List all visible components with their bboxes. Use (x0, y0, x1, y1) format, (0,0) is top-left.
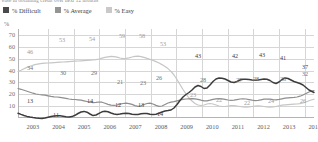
y-tick-40: 40 (1, 68, 15, 74)
data-label-easy-23: 23 (190, 92, 196, 98)
x-tick-2003: 2003 (27, 123, 40, 130)
data-label-difficult-14: 14 (157, 111, 163, 117)
data-label-average-32: 32 (302, 71, 308, 77)
data-label-average-34: 34 (27, 65, 33, 71)
data-label-difficult-13: 13 (138, 102, 144, 108)
data-label-difficult-41: 41 (280, 55, 286, 61)
legend-item-average[interactable]: % Average (55, 7, 92, 14)
x-tick-2013: 2013 (283, 123, 296, 130)
y-axis-unit: % (4, 20, 9, 27)
y-tick-30: 30 (1, 79, 15, 85)
chart-root: ease in obtaining credit over next 12 mo… (0, 0, 318, 142)
data-label-easy-59: 59 (119, 33, 125, 39)
legend-label-average: % Average (64, 7, 92, 14)
data-label-average-28: 28 (200, 77, 206, 83)
x-tick-2005: 2005 (78, 123, 91, 130)
x-tick-2014: 2014 (308, 123, 318, 130)
data-label-difficult-37: 37 (302, 64, 308, 70)
data-label-difficult-42: 42 (232, 53, 238, 59)
y-tick-20: 20 (1, 91, 15, 97)
data-label-difficult-12: 12 (115, 102, 121, 108)
x-tick-2006: 2006 (103, 123, 116, 130)
data-label-easy-26: 26 (300, 98, 306, 104)
data-label-difficult-14: 14 (87, 98, 93, 104)
data-label-easy-46: 46 (27, 49, 33, 55)
legend-item-difficult[interactable]: % Difficult (3, 7, 41, 14)
data-label-difficult-13: 13 (27, 98, 33, 104)
data-label-difficult-43: 43 (195, 53, 201, 59)
chart-caption: ease in obtaining credit over next 12 mo… (2, 0, 98, 3)
legend-label-difficult: % Difficult (12, 7, 41, 14)
data-label-difficult-11: 11 (53, 112, 59, 118)
x-tick-2004: 2004 (52, 123, 65, 130)
x-tick-2008: 2008 (155, 123, 168, 130)
data-label-average-26: 26 (156, 75, 162, 81)
y-tick-10: 10 (1, 103, 15, 109)
data-label-easy-54: 54 (89, 36, 95, 42)
data-label-easy-58: 58 (139, 33, 145, 39)
data-label-average-21: 21 (117, 79, 123, 85)
data-label-average-29: 29 (91, 70, 97, 76)
data-label-difficult-43: 43 (259, 52, 265, 58)
data-label-easy-53: 53 (59, 37, 65, 43)
legend-label-easy: % Easy (115, 7, 134, 14)
legend-item-easy[interactable]: % Easy (106, 7, 134, 14)
y-tick-70: 70 (1, 32, 15, 38)
legend-swatch-difficult (3, 7, 9, 13)
x-tick-2012: 2012 (257, 123, 270, 130)
data-label-easy-22: 22 (244, 100, 250, 106)
legend-swatch-easy (106, 7, 112, 13)
data-label-average-23: 23 (140, 80, 146, 86)
x-tick-2011: 2011 (232, 123, 244, 130)
data-label-average-28: 28 (253, 76, 259, 82)
data-label-average-28: 28 (280, 76, 286, 82)
legend-swatch-average (55, 7, 61, 13)
data-label-average-27: 27 (236, 77, 242, 83)
data-label-average-30: 30 (60, 70, 66, 76)
data-label-easy-24: 24 (268, 98, 274, 104)
x-tick-2010: 2010 (206, 123, 219, 130)
x-tick-2007: 2007 (129, 123, 142, 130)
data-label-easy-22: 22 (216, 97, 222, 103)
chart-legend: % Difficult % Average % Easy (3, 7, 148, 14)
y-tick-60: 60 (1, 44, 15, 50)
y-tick-50: 50 (1, 56, 15, 62)
data-label-easy-53: 53 (160, 41, 166, 47)
x-tick-2009: 2009 (180, 123, 193, 130)
